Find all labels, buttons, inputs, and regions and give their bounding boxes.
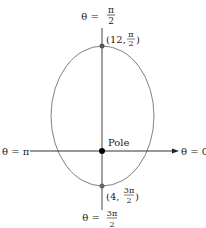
point-top-theta-num: π: [128, 30, 133, 39]
point-top-label-prefix: (12,: [106, 34, 126, 45]
point-top: [100, 44, 105, 49]
point-bottom-label-prefix: (4,: [106, 191, 119, 202]
point-bottom-label-suffix: ): [135, 191, 139, 202]
polar-diagram: θ = π 2 (12, π 2 ) θ = π θ = 0 Pole (4, …: [0, 0, 206, 228]
point-bottom: [100, 184, 105, 189]
arrow-head-icon: [172, 149, 179, 154]
point-bottom-theta-num: 3π: [124, 186, 134, 195]
left-axis-label: θ = π: [2, 146, 30, 157]
point-top-theta-den: 2: [128, 39, 133, 48]
top-axis-label-lhs: θ =: [81, 11, 99, 22]
bottom-axis-label-num: 3π: [107, 209, 117, 218]
right-axis-label: θ = 0: [181, 146, 206, 157]
bottom-axis-label-den: 2: [109, 220, 114, 228]
pole-label: Pole: [108, 137, 130, 148]
top-axis-label-num: π: [108, 5, 114, 15]
polar-graph-svg: θ = π 2 (12, π 2 ) θ = π θ = 0 Pole (4, …: [0, 0, 206, 228]
top-axis-label-den: 2: [108, 16, 114, 26]
point-top-label-suffix: ): [136, 34, 140, 45]
bottom-axis-label-lhs: θ =: [82, 212, 100, 223]
pole-point: [99, 148, 105, 154]
point-bottom-theta-den: 2: [126, 196, 131, 205]
